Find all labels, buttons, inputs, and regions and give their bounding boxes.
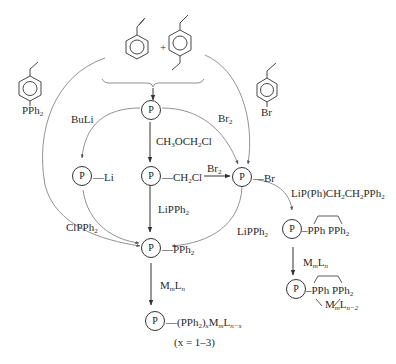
plus-sign: + bbox=[160, 41, 166, 53]
p-chelate-complex-circle: P bbox=[286, 279, 306, 299]
p-complex-circle: P bbox=[145, 311, 165, 331]
p-chelate-circle: P bbox=[282, 219, 302, 239]
p-chelate-group: –PPh PPh2 bbox=[302, 224, 349, 240]
reagent-br2-mid: Br2 bbox=[207, 162, 222, 178]
reagent-lip-chain: LiP(Ph)CH2CH2PPh2 bbox=[291, 187, 385, 203]
p-pph2-group: —PPh2 bbox=[162, 243, 194, 259]
p-li-circle: P bbox=[72, 166, 92, 186]
vinyl-pph2-structure bbox=[19, 62, 41, 106]
reagent-mmln-right: MmLn bbox=[303, 256, 328, 272]
divinylbenzene-structure bbox=[169, 15, 191, 70]
reagent-lipph2-right: LiPPh2 bbox=[237, 225, 268, 241]
p-ch2cl-circle: P bbox=[141, 166, 161, 186]
reaction-scheme: + PPh2 Br P BuLi Br2 CH3OCH2Cl P —Li P —… bbox=[0, 0, 396, 364]
p-pph2-circle: P bbox=[141, 238, 161, 258]
vinyl-br-label: Br bbox=[261, 106, 272, 118]
reagent-mmln-center: MmLn bbox=[160, 279, 185, 295]
polymer-node: P bbox=[141, 100, 161, 120]
p-br-circle: P bbox=[232, 167, 252, 187]
reagent-lipph2-center: LiPPh2 bbox=[158, 203, 189, 219]
reagent-buli: BuLi bbox=[71, 113, 94, 125]
reagent-ch3och2cl: CH3OCH2Cl bbox=[156, 135, 212, 151]
x-range-note: (x = 1–3) bbox=[174, 336, 215, 348]
reagent-br2-top: Br2 bbox=[218, 112, 233, 128]
reagent-clpph2: ClPPh2 bbox=[66, 221, 98, 237]
p-chelate-complex-metal: MmLn−2 bbox=[325, 298, 358, 314]
vinyl-br-structure bbox=[257, 63, 277, 107]
p-ch2cl-group: —CH2Cl bbox=[162, 171, 202, 187]
styrene-structure bbox=[126, 18, 148, 59]
p-li-group: —Li bbox=[93, 171, 114, 183]
p-complex-group: —(PPh2)xMmLn−x bbox=[166, 316, 242, 332]
vinyl-pph2-label: PPh2 bbox=[22, 104, 43, 120]
p-br-group: —Br bbox=[253, 172, 275, 184]
